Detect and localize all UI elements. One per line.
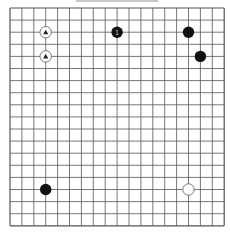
white-stone[interactable] xyxy=(40,51,51,62)
white-stone[interactable] xyxy=(40,26,51,37)
go-board[interactable]: 1 xyxy=(0,0,230,236)
white-stone-disc xyxy=(183,184,194,195)
black-stone[interactable] xyxy=(40,184,51,195)
move-number-label: 1 xyxy=(115,29,119,37)
black-stone[interactable]: 1 xyxy=(111,26,122,37)
stones-layer: 1 xyxy=(40,26,206,195)
black-stone-disc xyxy=(195,51,206,62)
white-stone[interactable] xyxy=(183,184,194,195)
black-stone-disc xyxy=(183,26,194,37)
black-stone[interactable] xyxy=(183,26,194,37)
black-stone-disc xyxy=(40,184,51,195)
black-stone[interactable] xyxy=(195,51,206,62)
